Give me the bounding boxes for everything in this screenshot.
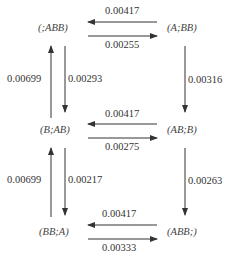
label-left-up-1: 0.00699	[7, 73, 41, 84]
label-mid-left: 0.00417	[105, 108, 139, 119]
label-top-left: 0.00417	[105, 5, 139, 16]
node-bb-a: (BB;A)	[39, 226, 69, 237]
node-empty-abb: (;ABB)	[38, 22, 68, 33]
label-bot-right: 0.00333	[102, 242, 136, 253]
label-left-down-2: 0.00217	[68, 174, 102, 185]
node-b-ab: (B;AB)	[40, 124, 70, 135]
label-top-right: 0.00255	[105, 39, 139, 50]
label-mid-right: 0.00275	[105, 141, 139, 152]
label-right-down-2: 0.00263	[188, 175, 222, 186]
node-ab-b: (AB;B)	[167, 124, 197, 135]
label-left-down-1: 0.00293	[68, 73, 102, 84]
node-abb-empty: (ABB;)	[167, 226, 197, 237]
label-bot-left: 0.00417	[102, 208, 136, 219]
label-left-up-2: 0.00699	[7, 174, 41, 185]
label-right-down-1: 0.00316	[188, 74, 222, 85]
node-a-bb: (A;BB)	[167, 22, 197, 33]
